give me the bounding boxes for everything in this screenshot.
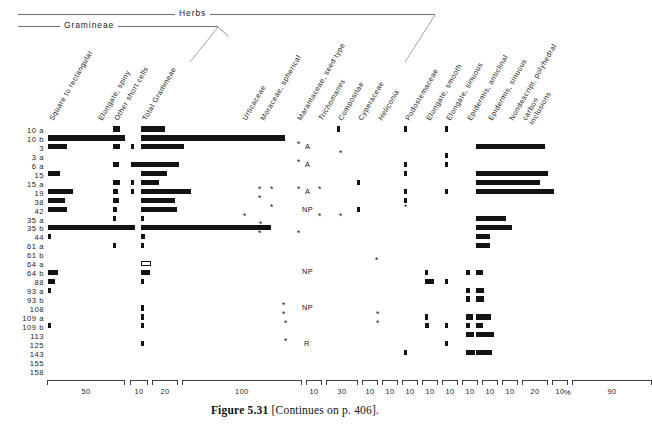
symbol-mark-star-23: * [318,186,322,194]
axis-bracket-8 [402,380,418,385]
axis-bracket-14 [522,380,548,385]
tick-bar-9 [445,323,448,328]
axis-tick-label-16: 90 [572,387,652,396]
bar-total-gramineae-row-3 [141,144,184,149]
symbol-mark-star-27: * [339,213,343,221]
bar-square-to-rectangular-row-10-b [48,135,125,140]
symbol-mark-|-28 [357,180,360,185]
axis-tick-label-12: 10 [482,387,498,396]
symbol-mark-star-12: * [297,141,301,149]
row-label-10-a: 10 a [8,126,44,135]
axis-bracket-10 [442,380,458,385]
row-label-3-a: 3 a [8,153,44,162]
tick-bar-20 [404,350,407,355]
axis-bracket-16 [572,380,652,385]
bar-total-gramineae-row-42 [141,207,177,212]
bar-carbon-inclusions-row-19 [476,189,554,194]
bar-carbon-inclusions-row-44 [476,234,487,239]
bar-other-short-cells-row-3 [131,144,134,149]
symbol-mark-star-15: * [297,230,301,238]
symbol-mark-star-2: * [258,195,262,203]
row-label-125: 125 [8,341,44,350]
bar-total-gramineae-row-19 [141,189,191,194]
symbol-mark-star-32: * [376,320,380,328]
group-label-gramineae: Gramineae [60,20,118,30]
symbol-mark-star-9: * [282,311,286,319]
symbol-mark-|-25 [337,126,340,131]
tick-bar-16 [466,332,474,337]
row-label-35-b: 35 b [8,224,44,233]
bar-total-gramineae-row-35-b [141,225,271,230]
row-label-19: 19 [8,189,44,198]
bar-square-to-rectangular-row-42 [48,207,67,212]
row-label-109-b: 109 b [8,323,44,332]
figure-caption: Figure 5.31 [Continues on p. 406]. [0,404,590,416]
row-label-15: 15 [8,171,44,180]
row-label-93-b: 93 b [8,296,44,305]
symbol-mark-|-29 [357,207,360,212]
group-label-herbs: Herbs [175,8,210,18]
symbol-mark-|-34 [404,162,407,167]
bar-elongate-spiny-row-3 [113,144,120,149]
axis-tick-label-5: 30 [326,387,358,396]
bar-elongate-spiny-row-38 [113,198,119,203]
tick-bar-5 [445,153,448,158]
tick-bar-2 [425,314,428,319]
symbol-mark-|-36 [404,189,407,194]
axis-bracket-7 [382,380,398,385]
symbol-mark-star-38: * [404,204,408,212]
axis-unit-percent: % [564,388,571,397]
row-label-42: 42 [8,207,44,216]
symbol-mark-star-10: * [284,320,288,328]
figure-number: Figure 5.31 [211,404,269,416]
axis-tick-label-1: 10 [130,387,148,396]
column-header-marantaceae-seed-type: Marantaceae, seed type [296,42,340,118]
bar-elongate-spiny-row-35-a [113,216,116,221]
bar-carbon-inclusions-row-93-a [476,288,484,293]
bar-carbon-inclusions-row-109-b [476,323,483,328]
symbol-mark-star-0: * [243,213,247,221]
bar-total-gramineae-row-109-a [141,314,144,319]
axis-tick-label-8: 10 [402,387,418,396]
row-label-143: 143 [8,350,44,359]
column-header-urticaceae: Urticaceae [241,84,261,118]
tick-bar-7 [445,189,448,194]
axis-bracket-11 [462,380,478,385]
symbol-mark-star-7: * [270,204,274,212]
symbol-mark-a-16: A [305,143,310,150]
axis-bracket-4 [306,380,322,385]
bar-total-gramineae-row-109-b [141,323,144,328]
symbol-mark-star-31: * [376,311,380,319]
symbol-mark-star-6: * [270,186,274,194]
tick-bar-1 [425,279,434,284]
axis-tick-label-4: 10 [306,387,322,396]
bar-carbon-inclusions-row-113 [476,332,494,337]
axis-tick-label-6: 10 [362,387,378,396]
tick-bar-10 [445,341,448,346]
row-label-88: 88 [8,278,44,287]
bar-elongate-spiny-row-19 [113,189,118,194]
row-label-61-b: 61 b [8,251,44,260]
tick-bar-13 [466,296,470,301]
row-label-44: 44 [8,233,44,242]
row-label-6-a: 6 a [8,162,44,171]
axis-tick-label-9: 10 [422,387,438,396]
bar-total-gramineae-row-108 [141,305,144,310]
tick-bar-15 [466,323,470,328]
column-header-carbon-inclusions-line2: inclusions [528,90,553,126]
axis-tick-label-0: 50 [47,387,125,396]
bar-total-gramineae-row-15-a [141,180,159,185]
row-label-93-a: 93 a [8,287,44,296]
bar-total-gramineae-row-10-b [141,135,285,140]
row-label-10-b: 10 b [8,135,44,144]
bar-carbon-inclusions-row-35-b [476,225,512,230]
tick-bar-12 [466,288,470,293]
symbol-mark-np-20: NP [302,268,313,275]
bar-carbon-inclusions-row-64-b [476,270,483,275]
bar-total-gramineae-row-35-a [141,216,144,221]
axis-tick-label-10: 10 [442,387,458,396]
symbol-mark-star-11: * [284,338,288,346]
symbol-mark-star-13: * [297,159,301,167]
tick-bar-4 [445,126,448,131]
bar-total-gramineae-row-64-b [141,270,150,275]
